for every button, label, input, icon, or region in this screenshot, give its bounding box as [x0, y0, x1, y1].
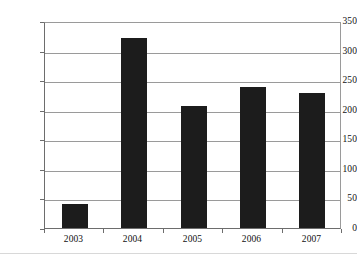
x-tick-label: 2003 [44, 234, 103, 245]
bar [299, 93, 325, 228]
plot-area [44, 22, 341, 229]
bar [121, 38, 147, 228]
x-tick-mark [282, 229, 283, 233]
gridline [45, 53, 340, 54]
gridline [45, 82, 340, 83]
x-tick-mark-origin [44, 229, 45, 233]
x-tick-mark [222, 229, 223, 233]
x-tick-label: 2004 [103, 234, 162, 245]
x-tick-mark [163, 229, 164, 233]
x-tick-mark [341, 229, 342, 233]
bar [240, 87, 266, 228]
x-tick-label: 2007 [282, 234, 341, 245]
bar [62, 204, 88, 228]
bottom-rule [0, 253, 357, 254]
bar-chart-figure: 050100150200250300350 200320042005200620… [0, 0, 357, 258]
bar [181, 106, 207, 228]
x-tick-label: 2006 [222, 234, 281, 245]
x-tick-mark [103, 229, 104, 233]
x-tick-label: 2005 [163, 234, 222, 245]
